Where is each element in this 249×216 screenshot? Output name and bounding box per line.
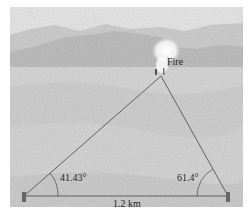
right-post [226, 192, 230, 202]
fire-marker [155, 69, 157, 75]
triangle-diagram [10, 7, 243, 207]
left-angle-label: 41.43° [60, 173, 87, 183]
base-distance-label: 1.2 km [113, 199, 141, 209]
fire-label: Fire [167, 57, 183, 67]
left-post [22, 192, 26, 202]
right-angle-label: 61.4° [177, 173, 199, 183]
landscape-illustration [10, 7, 243, 207]
